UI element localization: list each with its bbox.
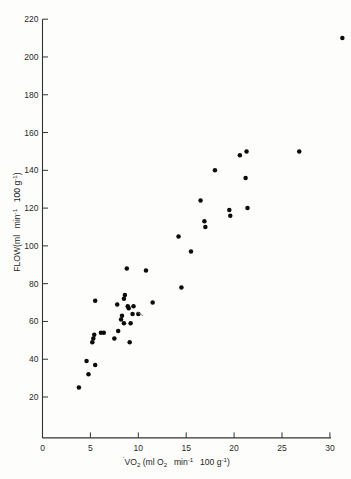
svg-text:FLOW(ml min-1 100 g-1): FLOW(ml min-1 100 g-1) <box>11 172 22 272</box>
scatter-plot-figure: 2040608010012014016018020022005101520253… <box>0 0 351 479</box>
x-axis-title: ·VO2 (ml O2 min-1 100 g-1) <box>122 454 230 469</box>
y-axis-title: FLOW(ml min-1 100 g-1) <box>11 172 22 272</box>
axis-titles-layer: ·VO2 (ml O2 min-1 100 g-1) FLOW(ml min-1… <box>0 0 351 479</box>
svg-text:·VO2 (ml O2 min-1 100 g-1): ·VO2 (ml O2 min-1 100 g-1) <box>122 454 230 469</box>
